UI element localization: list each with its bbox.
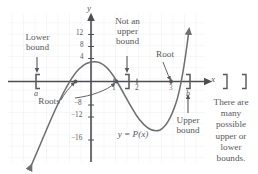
figure-container: y x 12 8 4 −8 −12 −16 1 2 3 a b Lower bo…	[0, 0, 258, 174]
extra-bracket-marks	[223, 75, 246, 89]
y-axis-label: y	[87, 4, 91, 14]
y-tick-neg8: −8	[74, 100, 82, 108]
x-tick-2: 2	[135, 85, 139, 93]
y-tick-12: 12	[76, 30, 83, 38]
y-tick-neg16: −16	[71, 135, 82, 143]
bounds-note: There are many possible upper or lower b…	[205, 97, 257, 164]
not-an-upper-bound-label: Not an upper bound	[99, 17, 156, 47]
curve-equation-label: y = P(x)	[103, 130, 163, 140]
x-axis-label: x	[211, 75, 215, 85]
x-tick-3: 3	[169, 85, 173, 93]
y-tick-neg12: −12	[71, 112, 82, 120]
x-tick-1: 1	[112, 85, 116, 93]
root-label: Root	[150, 50, 180, 60]
roots-label: Roots	[32, 97, 66, 107]
lower-bound-label: Lower bound	[9, 33, 66, 53]
y-tick-8: 8	[80, 42, 84, 50]
y-tick-4: 4	[80, 54, 84, 62]
marker-b: b	[186, 90, 190, 99]
